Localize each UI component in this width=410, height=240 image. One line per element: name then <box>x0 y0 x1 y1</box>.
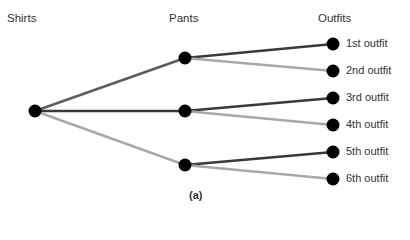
branch-pants1-outfit2 <box>185 58 333 71</box>
outfit-label-1: 1st outfit <box>346 37 388 49</box>
branch-pants3-outfit5 <box>185 152 333 165</box>
node-outfit-2 <box>327 65 340 78</box>
outfit-label-6: 6th outfit <box>346 172 388 184</box>
outfit-label-2: 2nd outfit <box>346 64 391 76</box>
outfit-label-4: 4th outfit <box>346 118 388 130</box>
branch-root-pants3 <box>35 111 185 165</box>
branch-pants2-outfit3 <box>185 98 333 111</box>
branch-pants2-outfit4 <box>185 111 333 125</box>
node-pants-1 <box>179 52 192 65</box>
node-outfit-5 <box>327 146 340 159</box>
node-outfit-1 <box>327 38 340 51</box>
node-outfit-4 <box>327 119 340 132</box>
branch-pants1-outfit1 <box>185 44 333 58</box>
outfit-label-5: 5th outfit <box>346 145 388 157</box>
branch-root-pants1 <box>35 58 185 111</box>
outfit-label-3: 3rd outfit <box>346 91 389 103</box>
node-pants-3 <box>179 159 192 172</box>
figure-caption: (a) <box>189 189 202 201</box>
node-root <box>29 105 42 118</box>
branch-pants3-outfit6 <box>185 165 333 179</box>
node-outfit-6 <box>327 173 340 186</box>
node-outfit-3 <box>327 92 340 105</box>
node-pants-2 <box>179 105 192 118</box>
